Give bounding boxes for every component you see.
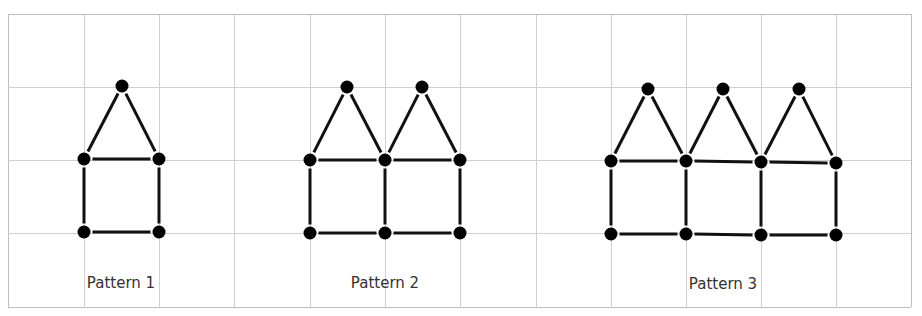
matchstick-edge	[727, 97, 757, 155]
matchstick-edge	[88, 94, 118, 152]
matchstick-edge	[765, 97, 795, 155]
matchstick-edge	[694, 161, 752, 162]
vertex-dot	[830, 229, 843, 242]
matchstick-edge	[126, 94, 155, 152]
vertex-dot	[793, 83, 806, 96]
vertex-dot	[379, 227, 392, 240]
matchstick-edge	[426, 95, 456, 153]
vertex-dot	[717, 83, 730, 96]
vertex-dot	[379, 154, 392, 167]
pattern-1-label: Pattern 1	[87, 274, 155, 292]
matchstick-edge	[694, 234, 752, 235]
pattern-2-label: Pattern 2	[351, 274, 419, 292]
pattern-1	[78, 80, 166, 239]
grid-canvas	[0, 0, 922, 316]
vertex-dot	[153, 153, 166, 166]
vertex-dot	[416, 81, 429, 94]
vertex-dot	[78, 153, 91, 166]
pattern-3	[605, 83, 843, 242]
vertex-dot	[605, 155, 618, 168]
vertex-dot	[116, 80, 129, 93]
vertex-dot	[341, 81, 354, 94]
matchstick-edge	[615, 97, 644, 154]
vertex-dot	[605, 228, 618, 241]
vertex-dot	[680, 228, 693, 241]
vertex-dot	[680, 155, 693, 168]
vertex-dot	[304, 154, 317, 167]
vertex-dot	[830, 157, 843, 170]
matchstick-edge	[652, 97, 682, 154]
vertex-dot	[755, 156, 768, 169]
matchstick-edge	[389, 95, 418, 153]
vertex-dot	[78, 226, 91, 239]
vertex-dot	[304, 227, 317, 240]
vertex-dot	[642, 83, 655, 96]
vertex-dot	[454, 154, 467, 167]
vertex-dot	[755, 229, 768, 242]
matchstick-edge	[314, 95, 343, 153]
matchstick-edge	[803, 97, 832, 156]
vertex-dot	[454, 227, 467, 240]
matchstick-edge	[351, 95, 381, 153]
matchstick-edge	[690, 97, 719, 154]
matchstick-edge	[769, 162, 827, 163]
pattern-3-label: Pattern 3	[689, 275, 757, 293]
vertex-dot	[153, 226, 166, 239]
